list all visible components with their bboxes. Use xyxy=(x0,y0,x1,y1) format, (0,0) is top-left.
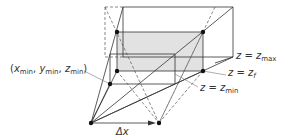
corner-min-dot xyxy=(108,82,112,86)
focal-top-right-dot xyxy=(201,30,205,34)
plane-min-label: z = zmin xyxy=(200,83,238,95)
focal-bottom-left-dot xyxy=(115,69,119,73)
equals: = xyxy=(233,67,248,78)
z-sub: min xyxy=(70,68,83,76)
y-sub: min xyxy=(45,68,58,76)
x-sub: min xyxy=(20,68,33,76)
max-sub: max xyxy=(261,55,276,63)
focal-bottom-right-dot xyxy=(201,69,205,73)
f-sub: f xyxy=(253,72,255,80)
baseline-label: Δx xyxy=(116,127,129,137)
corner-point-label: (xmin, ymin, zmin) xyxy=(10,64,87,76)
plane-f-label: z = zf xyxy=(228,68,256,80)
equals: = xyxy=(205,82,220,93)
min-sub: min xyxy=(225,87,238,95)
left-eye-dot xyxy=(89,121,93,125)
delta-x-text: Δx xyxy=(116,126,129,137)
right-eye-dot xyxy=(157,121,161,125)
paren-close: ) xyxy=(83,63,87,74)
left-eye-rays xyxy=(91,7,233,123)
plane-max-label: z = zmax xyxy=(236,51,277,63)
equals: = xyxy=(241,50,256,61)
arrowhead-icon xyxy=(148,121,156,126)
baseline-arrow xyxy=(93,121,156,126)
focal-top-left-dot xyxy=(115,30,119,34)
focal-plane-shaded xyxy=(117,32,203,71)
